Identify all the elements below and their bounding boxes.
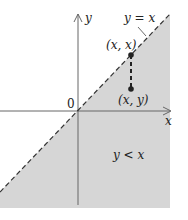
region-label: y < x	[112, 148, 144, 162]
diagram-canvas: y x 0 y = x (x, x) (x, y) y < x	[0, 0, 188, 220]
point-x-x-label: (x, x)	[106, 38, 137, 52]
point-x-x	[128, 52, 134, 58]
point-x-y-label: (x, y)	[118, 93, 149, 107]
y-axis-label: y	[84, 11, 92, 25]
line-label: y = x	[123, 11, 155, 25]
point-x-y	[128, 86, 134, 92]
origin-label: 0	[67, 97, 75, 111]
x-axis-label: x	[165, 114, 172, 128]
line-label-leader	[138, 27, 146, 36]
